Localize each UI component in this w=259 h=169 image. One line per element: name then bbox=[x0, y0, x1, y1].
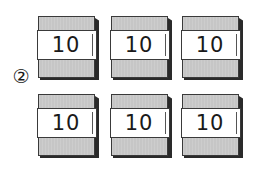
block-value: 10 bbox=[111, 31, 167, 59]
item-number-label: ② bbox=[11, 66, 31, 86]
block-value: 10 bbox=[182, 31, 238, 59]
block-value: 10 bbox=[38, 109, 94, 137]
ten-block: 10 bbox=[182, 94, 242, 157]
block-label-band: 10 bbox=[110, 108, 170, 138]
block-top-band bbox=[182, 16, 239, 31]
ten-block: 10 bbox=[38, 16, 98, 79]
block-bottom-band bbox=[38, 59, 95, 78]
block-label-band: 10 bbox=[37, 30, 97, 60]
block-bottom-band bbox=[111, 137, 168, 156]
block-label-band: 10 bbox=[110, 30, 170, 60]
block-value: 10 bbox=[111, 109, 167, 137]
block-top-band bbox=[38, 16, 95, 31]
block-top-band bbox=[182, 94, 239, 109]
block-label-band: 10 bbox=[37, 108, 97, 138]
block-bottom-band bbox=[111, 59, 168, 78]
block-top-band bbox=[38, 94, 95, 109]
block-label-band: 10 bbox=[181, 30, 241, 60]
block-value: 10 bbox=[182, 109, 238, 137]
block-bottom-band bbox=[38, 137, 95, 156]
block-label-band: 10 bbox=[181, 108, 241, 138]
ten-block: 10 bbox=[111, 16, 171, 79]
ten-block: 10 bbox=[182, 16, 242, 79]
block-bottom-band bbox=[182, 137, 239, 156]
block-value: 10 bbox=[38, 31, 94, 59]
block-top-band bbox=[111, 16, 168, 31]
block-top-band bbox=[111, 94, 168, 109]
ten-block: 10 bbox=[38, 94, 98, 157]
block-bottom-band bbox=[182, 59, 239, 78]
ten-block: 10 bbox=[111, 94, 171, 157]
